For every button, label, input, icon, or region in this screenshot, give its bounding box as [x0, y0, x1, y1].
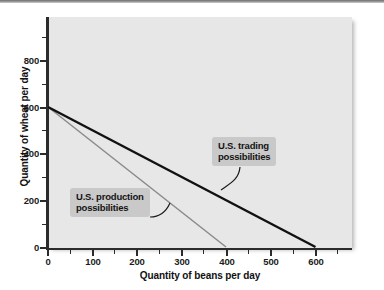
x-tick-label-500: 500: [251, 256, 291, 267]
y-axis-line: [46, 17, 49, 250]
annotation-production-possibilities: U.S. production possibilities: [70, 188, 150, 217]
y-tick-800: [40, 60, 48, 62]
x-tick-0: [47, 248, 49, 256]
x-axis-title: Quantity of beans per day: [48, 270, 352, 281]
x-tick-label-600: 600: [296, 256, 336, 267]
x-tick-minor-50: [70, 248, 71, 254]
x-tick-minor-650: [337, 248, 338, 254]
y-tick-minor-900: [42, 37, 48, 38]
x-tick-label-400: 400: [207, 256, 247, 267]
x-tick-200: [136, 248, 138, 256]
x-tick-300: [181, 248, 183, 256]
y-tick-minor-300: [42, 177, 48, 178]
y-tick-label-0: 0: [0, 242, 39, 253]
x-tick-minor-350: [203, 248, 204, 254]
chart-figure: 0 200 400 600 800 0 100 200 300 400 500 …: [0, 3, 384, 290]
x-tick-minor-450: [248, 248, 249, 254]
x-tick-label-300: 300: [162, 256, 202, 267]
x-tick-label-0: 0: [28, 256, 68, 267]
x-tick-minor-150: [114, 248, 115, 254]
x-tick-minor-250: [159, 248, 160, 254]
x-tick-label-200: 200: [117, 256, 157, 267]
x-tick-500: [270, 248, 272, 256]
y-tick-minor-500: [42, 130, 48, 131]
y-axis-title: Quantity of wheat per day: [19, 47, 30, 207]
y-tick-400: [40, 153, 48, 155]
annotation-trading-possibilities: U.S. trading possibilities: [212, 137, 276, 166]
y-tick-minor-700: [42, 84, 48, 85]
x-tick-400: [226, 248, 228, 256]
x-tick-minor-550: [293, 248, 294, 254]
y-tick-600: [40, 107, 48, 109]
x-tick-600: [315, 248, 317, 256]
y-tick-200: [40, 200, 48, 202]
x-tick-100: [92, 248, 94, 256]
x-tick-label-100: 100: [73, 256, 113, 267]
y-tick-minor-100: [42, 224, 48, 225]
